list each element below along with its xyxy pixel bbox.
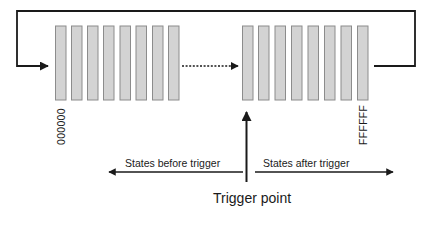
buffer-cell xyxy=(104,26,115,100)
buffer-cell xyxy=(136,26,147,100)
trigger-point-label: Trigger point xyxy=(213,190,291,206)
buffer-cell xyxy=(88,26,99,100)
buffer-cell xyxy=(120,26,131,100)
buffer-cells-right xyxy=(243,26,369,100)
states-before-trigger-label: States before trigger xyxy=(125,157,220,169)
buffer-cell xyxy=(358,26,369,100)
buffer-cells-left xyxy=(56,26,180,100)
end-address-label: FFFFFF xyxy=(357,105,369,145)
start-address-label: 000000 xyxy=(55,108,67,145)
buffer-cell xyxy=(275,26,286,100)
buffer-cell xyxy=(325,26,336,100)
buffer-cell xyxy=(153,26,164,100)
buffer-cell xyxy=(259,26,270,100)
buffer-cell xyxy=(341,26,352,100)
buffer-cell xyxy=(292,26,303,100)
buffer-cell xyxy=(308,26,319,100)
buffer-cell xyxy=(72,26,83,100)
buffer-cell xyxy=(243,26,254,100)
buffer-cell xyxy=(56,26,67,100)
states-after-trigger-label: States after trigger xyxy=(263,157,349,169)
buffer-cell xyxy=(169,26,180,100)
